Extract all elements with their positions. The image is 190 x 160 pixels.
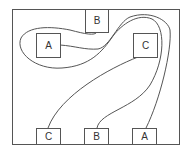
node-label: B <box>94 15 101 26</box>
node-top-b: B <box>86 10 109 33</box>
node-label: A <box>45 40 52 51</box>
node-bottom-b: B <box>85 129 109 145</box>
node-top-a: A <box>37 34 61 58</box>
node-bottom-a: A <box>133 129 157 145</box>
node-label: C <box>142 40 149 51</box>
node-label: C <box>45 131 52 142</box>
routing-diagram: A B C C B A <box>0 0 190 160</box>
node-top-c: C <box>134 34 158 58</box>
node-label: A <box>141 131 148 142</box>
node-label: B <box>93 131 100 142</box>
node-bottom-c: C <box>37 129 61 145</box>
